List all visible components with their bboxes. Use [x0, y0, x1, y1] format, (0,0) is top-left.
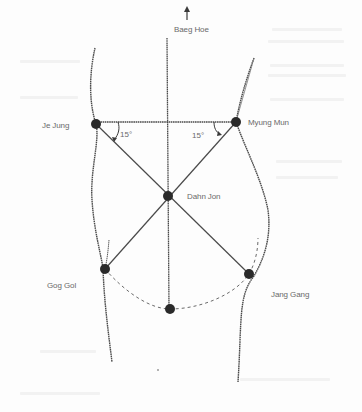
label-myung-mun: Myung Mun [248, 118, 289, 127]
dashed-arc [105, 238, 258, 309]
up-arrow-head [184, 6, 190, 12]
diagonal-jejung-janggang [96, 124, 249, 274]
angle-label-right: 15° [192, 131, 204, 140]
node-gog-gol [100, 264, 110, 274]
left-angle-arc [114, 122, 119, 140]
node-bottom [165, 304, 175, 314]
diagram-canvas [0, 0, 362, 412]
label-gog-gol: Gog Gol [47, 281, 76, 290]
right-angle-arrowhead [217, 131, 222, 136]
left-body-contour [91, 48, 112, 362]
angle-label-left: 15° [120, 130, 132, 139]
label-jang-gang: Jang Gang [271, 290, 309, 299]
center-vertical-line [167, 38, 169, 309]
label-dahn-jon: Dahn Jon [187, 192, 220, 201]
right-upper-thin [236, 58, 254, 122]
label-je-jung: Je Jung [42, 121, 69, 130]
body-energy-points-diagram: Baeg Hoe Je Jung Myung Mun Dahn Jon Gog … [0, 0, 362, 412]
node-jang-gang [244, 269, 254, 279]
label-baeg-hoe: Baeg Hoe [174, 25, 209, 34]
stray-dot [157, 369, 159, 371]
right-body-contour [236, 58, 269, 382]
node-myung-mun [231, 117, 241, 127]
node-dahn-jon [163, 191, 173, 201]
node-je-jung [91, 119, 101, 129]
